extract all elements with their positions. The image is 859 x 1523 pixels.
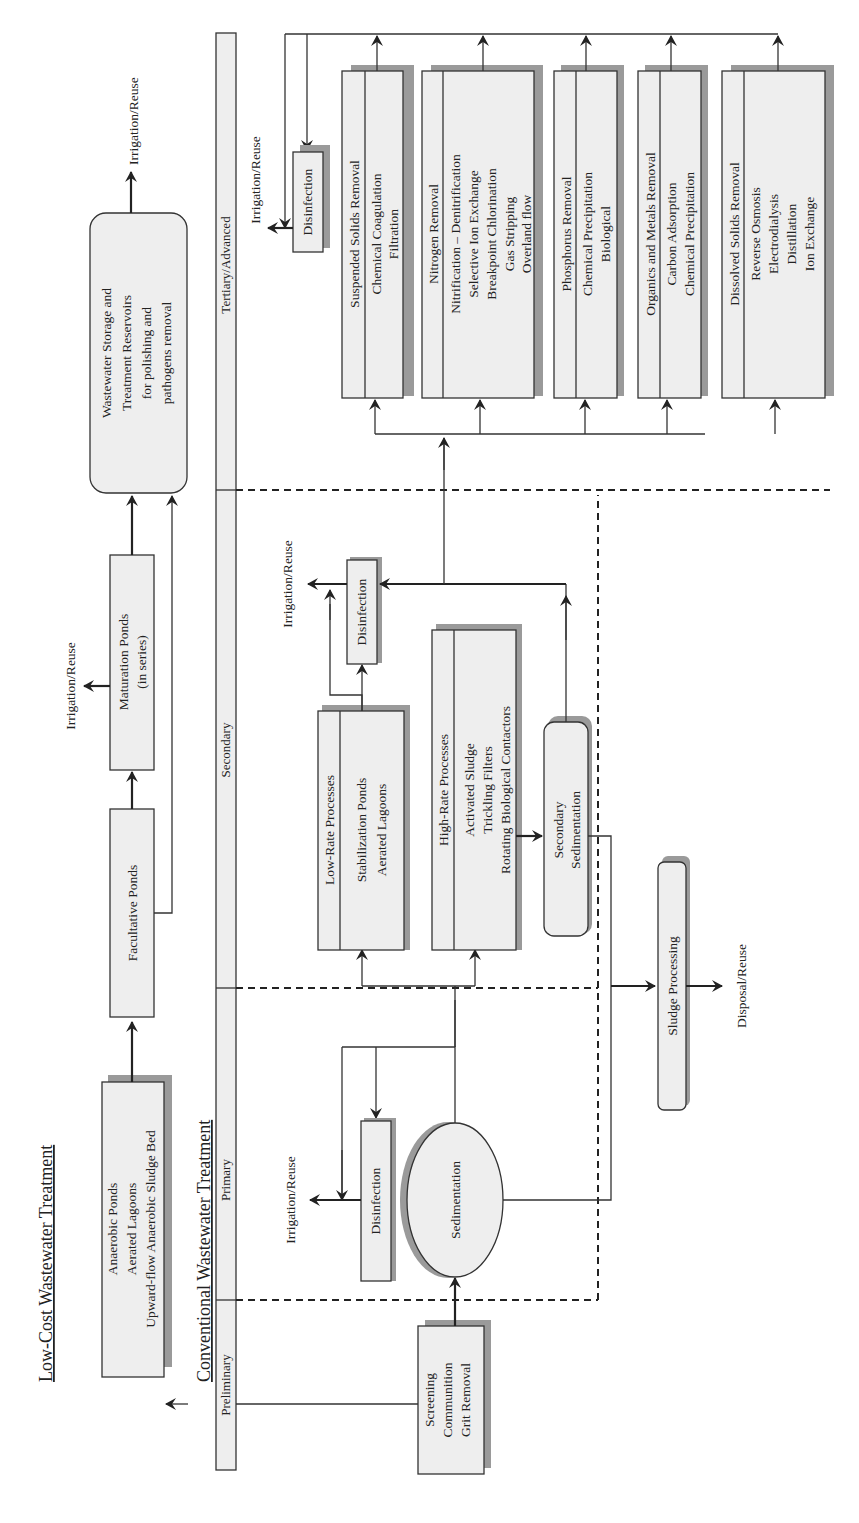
svg-text:Filtration: Filtration (386, 209, 401, 259)
tertiary-box-phosphorus: Phosphorus Removal Chemical Precipitatio… (554, 65, 624, 398)
stage-bar: Preliminary Primary Secondary Tertiary/A… (216, 33, 236, 1470)
svg-text:Disinfection: Disinfection (354, 578, 369, 645)
low-cost-title: Low-Cost Wastewater Treatment (36, 1145, 56, 1382)
svg-text:Treatment Reservoirs: Treatment Reservoirs (119, 295, 134, 411)
tertiary-box-dissolved-solids: Dissolved Solids Removal Reverse Osmosis… (722, 65, 834, 398)
svg-text:Disinfection: Disinfection (368, 1167, 383, 1234)
anaerobic-ponds-box: Anaerobic Ponds Aerated Lagoons Upward-f… (102, 1075, 172, 1377)
svg-text:Phosphorus Removal: Phosphorus Removal (559, 176, 574, 291)
svg-text:Dissolved Solids Removal: Dissolved Solids Removal (727, 162, 742, 306)
svg-text:Overland flow: Overland flow (519, 195, 534, 274)
primary-disinfection-box: Disinfection (361, 1118, 396, 1281)
maturation-output-label: Irrigation/Reuse (63, 642, 78, 730)
preliminary-box: Screening Communition Grit Removal (418, 1320, 491, 1474)
tertiary-disinfection-box: Disinfection (293, 145, 330, 252)
svg-text:Secondary: Secondary (551, 801, 566, 858)
primary-effluent-line (405, 1047, 455, 1123)
tertiary-box-suspended-solids: Suspended Solids Removal Chemical Coagul… (342, 65, 414, 398)
stage-preliminary: Preliminary (218, 1354, 233, 1416)
svg-text:Facultative Ponds: Facultative Ponds (125, 865, 140, 961)
facultative-ponds-box: Facultative Ponds (110, 809, 154, 1017)
svg-text:Ion Exchange: Ion Exchange (802, 197, 817, 272)
stage-secondary: Secondary (218, 722, 233, 777)
svg-text:Communition: Communition (440, 1362, 455, 1437)
svg-text:Chemical Coagulation: Chemical Coagulation (369, 173, 384, 294)
svg-text:Rotating Biological Contactors: Rotating Biological Contactors (498, 706, 513, 874)
conventional-title: Conventional Wastewater Treatment (194, 1120, 214, 1382)
svg-text:Activated Sludge: Activated Sludge (462, 743, 477, 836)
storage-reservoirs-box: Wastewater Storage and Treatment Reservo… (90, 213, 187, 493)
svg-text:Suspended Solids Removal: Suspended Solids Removal (347, 160, 362, 308)
sludge-output-label: Disposal/Reuse (734, 944, 749, 1028)
svg-text:Selective Ion Exchange: Selective Ion Exchange (466, 170, 481, 297)
svg-text:Biological: Biological (598, 206, 613, 262)
svg-text:High-Rate Processes: High-Rate Processes (436, 734, 451, 846)
stage-primary: Primary (218, 1159, 233, 1201)
svg-text:Screening: Screening (422, 1373, 437, 1427)
svg-text:for polishing and: for polishing and (139, 307, 154, 399)
svg-text:Grit Removal: Grit Removal (458, 1363, 473, 1437)
svg-text:Electrodialysis: Electrodialysis (766, 194, 781, 274)
tertiary-box-nitrogen: Nitrogen Removal Nitrification – Denitri… (422, 65, 543, 398)
svg-text:Disinfection: Disinfection (300, 168, 315, 235)
primary-output-label: Irrigation/Reuse (283, 1156, 298, 1244)
svg-text:Breakpoint Chlorination: Breakpoint Chlorination (484, 168, 499, 300)
tertiary-output-label: Irrigation/Reuse (248, 136, 263, 224)
svg-text:Distillation: Distillation (784, 203, 799, 264)
svg-text:Sludge Processing: Sludge Processing (665, 936, 680, 1036)
sludge-processing-box: Sludge Processing (658, 856, 690, 1110)
svg-text:Aerated Lagoons: Aerated Lagoons (124, 1183, 139, 1276)
svg-text:Organics and Metals Removal: Organics and Metals Removal (643, 152, 658, 316)
stage-tertiary: Tertiary/Advanced (218, 216, 233, 314)
primary-sludge-line (503, 1006, 611, 1200)
secondary-disinfection-box: Disinfection (347, 557, 382, 664)
low-rate-box: Low-Rate Processes Stabilization Ponds A… (318, 705, 410, 950)
storage-output-label: Irrigation/Reuse (126, 77, 141, 165)
maturation-ponds-box: Maturation Ponds (in series) (110, 555, 154, 770)
svg-text:Low-Rate Processes: Low-Rate Processes (322, 775, 337, 885)
svg-text:(in series): (in series) (134, 635, 149, 689)
svg-text:Wastewater Storage and: Wastewater Storage and (99, 288, 114, 418)
tertiary-box-organics-metals: Organics and Metals Removal Carbon Adsor… (638, 65, 708, 398)
svg-text:Reverse Osmosis: Reverse Osmosis (748, 187, 763, 280)
svg-text:Aerated Lagoons: Aerated Lagoons (374, 784, 389, 877)
bypass-line (154, 515, 172, 913)
sedimentation-ellipse: Sedimentation (400, 1122, 503, 1278)
svg-text:Carbon Adsorption: Carbon Adsorption (664, 182, 679, 285)
high-rate-box: High-Rate Processes Activated Sludge Tri… (432, 624, 522, 950)
svg-text:Maturation Ponds: Maturation Ponds (116, 614, 131, 710)
svg-text:Sedimentation: Sedimentation (568, 791, 583, 869)
svg-text:Gas Stripping: Gas Stripping (502, 196, 517, 271)
svg-text:Nitrogen Removal: Nitrogen Removal (426, 184, 441, 284)
svg-text:pathogens removal: pathogens removal (159, 302, 174, 405)
svg-text:Chemical Precipitation: Chemical Precipitation (580, 172, 595, 296)
svg-text:Chemical Precipitation: Chemical Precipitation (682, 172, 697, 296)
secondary-output-label: Irrigation/Reuse (280, 540, 295, 628)
svg-text:Anaerobic Ponds: Anaerobic Ponds (105, 1183, 120, 1276)
svg-text:Stabilization Ponds: Stabilization Ponds (354, 778, 369, 883)
svg-text:Trickling Filters: Trickling Filters (480, 746, 495, 834)
svg-text:Sedimentation: Sedimentation (448, 1161, 463, 1239)
svg-text:Nitrification – Denitrificatio: Nitrification – Denitrification (448, 154, 463, 314)
secondary-sedimentation-box: Secondary Sedimentation (544, 716, 592, 936)
svg-text:Upward-flow Anaerobic Sludge B: Upward-flow Anaerobic Sludge Bed (143, 1130, 158, 1328)
